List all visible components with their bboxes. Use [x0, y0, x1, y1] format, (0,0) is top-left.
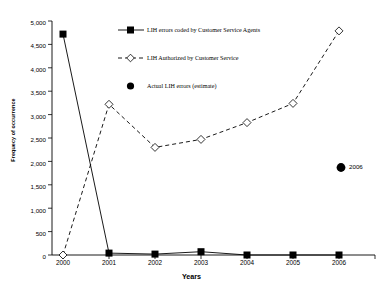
filled-square-line-icon	[118, 25, 144, 35]
data-point-coded-2002	[152, 251, 159, 258]
legend-item-actual-lih-errors: Actual LIH errors (estimate)	[118, 81, 217, 91]
data-point-authorized-2005	[289, 99, 297, 107]
data-point-coded-2001	[106, 250, 113, 257]
data-point-coded-2003	[198, 248, 205, 255]
data-point-coded-2005	[290, 252, 297, 259]
legend-item-lih-authorized: LIH Authorized by Customer Service	[118, 53, 238, 63]
series-lih-errors-coded-line	[63, 34, 339, 255]
data-point-coded-2006	[336, 252, 343, 259]
chart-figure: Frequecy of occurrence 5,000 4,500 4,000…	[0, 0, 383, 293]
data-point-authorized-2006	[335, 27, 343, 35]
y-axis-ticks	[48, 21, 52, 255]
data-point-authorized-2002	[151, 143, 159, 151]
data-point-authorized-2000	[59, 251, 67, 259]
data-point-authorized-2003	[197, 135, 205, 143]
legend-label-lih-authorized: LIH Authorized by Customer Service	[147, 55, 238, 61]
series-lih-errors-coded-markers	[60, 31, 343, 259]
data-point-authorized-2004	[243, 119, 251, 127]
filled-circle-icon	[118, 81, 144, 91]
data-point-coded-2004	[244, 252, 251, 259]
data-point-actual-errors-2006	[337, 163, 346, 172]
plot-area	[0, 0, 383, 293]
annotation-2006-label: 2006	[349, 163, 363, 170]
legend-label-actual-lih-errors: Actual LIH errors (estimate)	[147, 83, 217, 89]
legend-label-lih-errors-coded: LIH errors coded by Customer Service Age…	[147, 27, 260, 33]
open-diamond-dashed-line-icon	[118, 53, 144, 63]
legend-item-lih-errors-coded: LIH errors coded by Customer Service Age…	[118, 25, 260, 35]
data-point-coded-2000	[60, 31, 67, 38]
